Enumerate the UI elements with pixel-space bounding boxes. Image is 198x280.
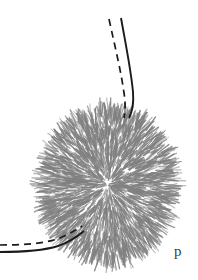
scientific-figure bbox=[0, 0, 198, 280]
panel-label-p: p bbox=[174, 244, 182, 259]
